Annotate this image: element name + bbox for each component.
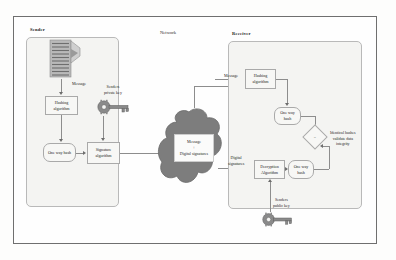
- arrowhead-hashing-to-hash: [59, 139, 63, 142]
- connector-hashing-to-hash: [61, 115, 62, 139]
- receiver-public-key-label: Senders public key: [273, 197, 290, 208]
- receiver-decryption-algorithm-node: Decryption Algorithm: [254, 160, 285, 179]
- receiver-one-way-hash-top-node: One way hash: [274, 107, 301, 125]
- receiver-digital-signatures-label: Digital signatures: [228, 155, 244, 166]
- sender-message-label: Message: [72, 81, 86, 87]
- sender-signature-algorithm-node: Signature algorithm: [87, 142, 120, 164]
- sender-section-title: Sender: [30, 27, 45, 32]
- connector-rhashing-right: [276, 79, 287, 80]
- receiver-hashing-algorithm-node: Hashing algorithm: [245, 69, 276, 89]
- arrowhead-hash-to-signature: [83, 151, 86, 155]
- connector-doc-to-hashing: [61, 79, 62, 93]
- receiver-panel: [228, 41, 362, 209]
- connector-cloud-top-riser: [194, 86, 195, 108]
- network-section-title: Network: [160, 30, 176, 35]
- arrowhead-doc-to-hashing: [59, 92, 63, 95]
- diagram-canvas: Sender Network Receiver: [0, 0, 396, 260]
- integrity-validation-label: Identical hashes validate data integrity: [330, 130, 356, 147]
- sender-hashing-algorithm-node: Hashing algorithm: [45, 96, 78, 115]
- key-icon: [97, 99, 130, 115]
- network-payload-label: Message + Digital signatures: [174, 134, 214, 162]
- key-icon: [262, 212, 293, 227]
- receiver-section-title: Receiver: [232, 31, 251, 36]
- connector-bottomhash-to-comparator-h: [314, 169, 329, 170]
- connector-bottomhash-to-comparator-v: [329, 146, 330, 169]
- arrowhead-rhashing-to-hash: [285, 103, 289, 106]
- arrowhead-bottomhash-to-comparator: [320, 144, 323, 148]
- document-stack-icon: [49, 39, 83, 79]
- connector-privatekey-to-signature: [103, 116, 104, 138]
- connector-rhashing-down: [287, 79, 288, 103]
- sender-one-way-hash-node: One way hash: [43, 143, 76, 162]
- sender-private-key-label: Senders private key: [104, 84, 122, 95]
- receiver-one-way-hash-bottom-node: One way hash: [288, 160, 314, 179]
- arrowhead-privatekey-to-signature: [101, 138, 105, 141]
- arrowhead-publickey-to-decryption: [268, 179, 272, 182]
- connector-publickey-to-decryption: [270, 182, 271, 212]
- connector-comparator-join: [322, 146, 330, 147]
- receiver-message-label: Message: [224, 73, 238, 79]
- payload-signature-text: Digital signatures: [180, 151, 208, 157]
- connector-tophash-to-comparator-h: [301, 116, 315, 117]
